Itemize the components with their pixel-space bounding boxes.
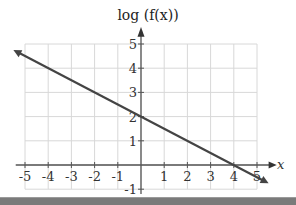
y-tick-label: 4 xyxy=(129,61,137,76)
x-tick-label: -1 xyxy=(111,169,124,184)
x-tick-label: -2 xyxy=(88,169,101,184)
y-tick-label: 3 xyxy=(129,85,137,100)
x-tick-label: -3 xyxy=(65,169,78,184)
x-tick-label: 3 xyxy=(206,169,214,184)
x-tick-label: -4 xyxy=(42,169,55,184)
y-tick-label: -1 xyxy=(124,182,137,197)
x-tick-label: -5 xyxy=(19,169,32,184)
x-tick-label: 1 xyxy=(160,169,168,184)
x-axis-arrow-icon xyxy=(269,162,277,169)
y-tick-label: 1 xyxy=(129,134,137,149)
chart-title: log (f(x)) xyxy=(117,7,178,23)
y-axis-arrow-icon xyxy=(138,27,145,37)
x-tick-label: 4 xyxy=(230,169,238,184)
x-tick-label: 2 xyxy=(183,169,191,184)
x-axis-label: x xyxy=(277,157,285,172)
y-tick-label: 5 xyxy=(129,37,137,52)
chart: -5-4-3-2-112345-112345 log (f(x)) x xyxy=(0,0,296,205)
bottom-divider-bar xyxy=(0,197,296,205)
